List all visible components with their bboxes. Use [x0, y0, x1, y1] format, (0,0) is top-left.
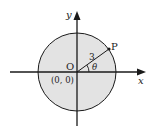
- y-axis-arrow-icon: [74, 11, 81, 20]
- origin-coords-label: (0, 0): [51, 75, 74, 85]
- y-axis-label: y: [65, 9, 72, 20]
- point-p-label: P: [111, 41, 118, 52]
- x-axis-label: x: [138, 75, 144, 86]
- unit-circle-diagram: y x O (0, 0) P 3 θ: [0, 0, 155, 133]
- origin-label: O: [66, 61, 74, 72]
- radius-label: 3: [89, 52, 95, 62]
- angle-label: θ: [92, 62, 97, 72]
